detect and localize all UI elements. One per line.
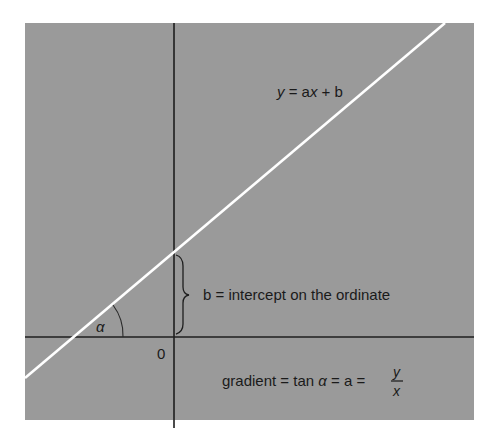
angle-label: α	[96, 318, 105, 335]
gradient-numerator: y	[392, 364, 401, 380]
origin-label: 0	[157, 345, 165, 362]
gradient-label: gradient = tan α = a =	[222, 372, 365, 389]
gradient-denominator: x	[392, 383, 401, 399]
intercept-label: b = intercept on the ordinate	[203, 286, 390, 303]
diagram-panel	[25, 23, 474, 420]
equation-label: y = ax + b	[276, 83, 343, 100]
linear-function-diagram: y = ax + b b = intercept on the ordinate…	[0, 0, 498, 443]
